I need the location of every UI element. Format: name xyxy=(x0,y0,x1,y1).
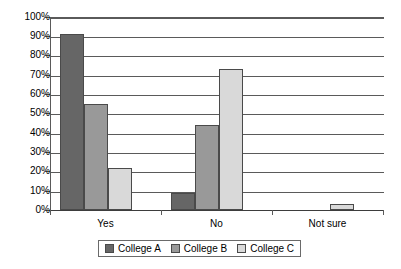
y-tick-label-70: 70% xyxy=(6,70,50,80)
y-tick-label-100: 100% xyxy=(6,12,50,22)
x-tick-mark-1 xyxy=(161,210,162,215)
x-category-label-yes: Yes xyxy=(50,218,161,230)
bar-yes-college-b xyxy=(84,104,108,210)
bar-chart: 100% 90% 80% 70% 60% 50% 40% 30% 20% 10%… xyxy=(0,0,401,269)
legend-swatch-icon-college-c xyxy=(237,244,246,253)
bar-yes-college-c xyxy=(108,168,132,210)
legend-item-college-c: College C xyxy=(237,243,294,254)
y-tick-label-10: 10% xyxy=(6,186,50,196)
y-tick-label-30: 30% xyxy=(6,147,50,157)
bar-no-college-c xyxy=(219,69,243,210)
legend-swatch-icon-college-b xyxy=(171,244,180,253)
x-tick-mark-0 xyxy=(50,210,51,215)
y-tick-label-0: 0% xyxy=(6,205,50,215)
legend-item-college-a: College A xyxy=(105,243,161,254)
legend-label-college-b: College B xyxy=(184,243,227,254)
legend-item-college-b: College B xyxy=(171,243,227,254)
x-category-label-no: No xyxy=(161,218,272,230)
y-tick-label-80: 80% xyxy=(6,50,50,60)
y-tick-label-90: 90% xyxy=(6,31,50,41)
x-tick-mark-2 xyxy=(272,210,273,215)
legend-swatch-icon-college-a xyxy=(105,244,114,253)
y-tick-label-20: 20% xyxy=(6,166,50,176)
bar-no-college-a xyxy=(171,193,195,210)
bar-no-college-b xyxy=(195,125,219,210)
x-axis-baseline xyxy=(50,210,384,211)
y-tick-label-60: 60% xyxy=(6,89,50,99)
legend: College A College B College C xyxy=(98,240,301,257)
y-tick-label-50: 50% xyxy=(6,108,50,118)
legend-label-college-c: College C xyxy=(250,243,294,254)
x-category-label-not-sure: Not sure xyxy=(272,218,383,230)
x-tick-mark-3 xyxy=(383,210,384,215)
legend-label-college-a: College A xyxy=(118,243,161,254)
y-axis: 100% 90% 80% 70% 60% 50% 40% 30% 20% 10%… xyxy=(0,0,50,269)
y-tick-label-40: 40% xyxy=(6,128,50,138)
bar-yes-college-a xyxy=(60,34,84,210)
